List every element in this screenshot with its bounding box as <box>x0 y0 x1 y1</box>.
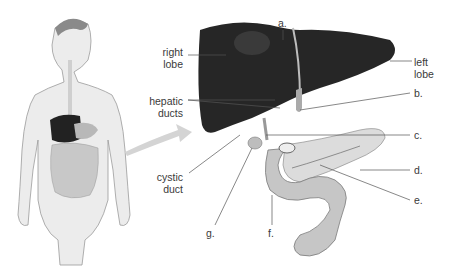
label-hepatic-ducts: hepaticducts <box>140 95 183 119</box>
label-e: e. <box>414 194 423 206</box>
label-d: d. <box>414 164 423 176</box>
label-text: lobe <box>163 58 183 70</box>
anatomy-diagram: rightlobe hepaticducts cysticduct leftlo… <box>0 0 455 269</box>
label-text: lobe <box>414 68 434 80</box>
liver <box>198 22 395 132</box>
label-text: duct <box>163 183 183 195</box>
human-figure <box>18 19 130 265</box>
label-left-lobe: leftlobe <box>414 56 434 80</box>
label-f: f. <box>268 227 274 239</box>
label-text: cystic <box>157 171 183 183</box>
diagram-artwork <box>0 0 455 269</box>
label-g: g. <box>206 227 215 239</box>
label-right-lobe: rightlobe <box>155 46 183 70</box>
pointer-arrow <box>125 124 192 156</box>
label-text: hepatic <box>149 95 183 107</box>
label-cystic-duct: cysticduct <box>140 171 183 195</box>
label-text: left <box>414 56 428 68</box>
label-b: b. <box>414 87 423 99</box>
label-text: right <box>163 46 183 58</box>
gallbladder <box>248 137 262 149</box>
label-a: a. <box>278 17 287 29</box>
label-c: c. <box>414 129 422 141</box>
label-text: ducts <box>158 107 183 119</box>
